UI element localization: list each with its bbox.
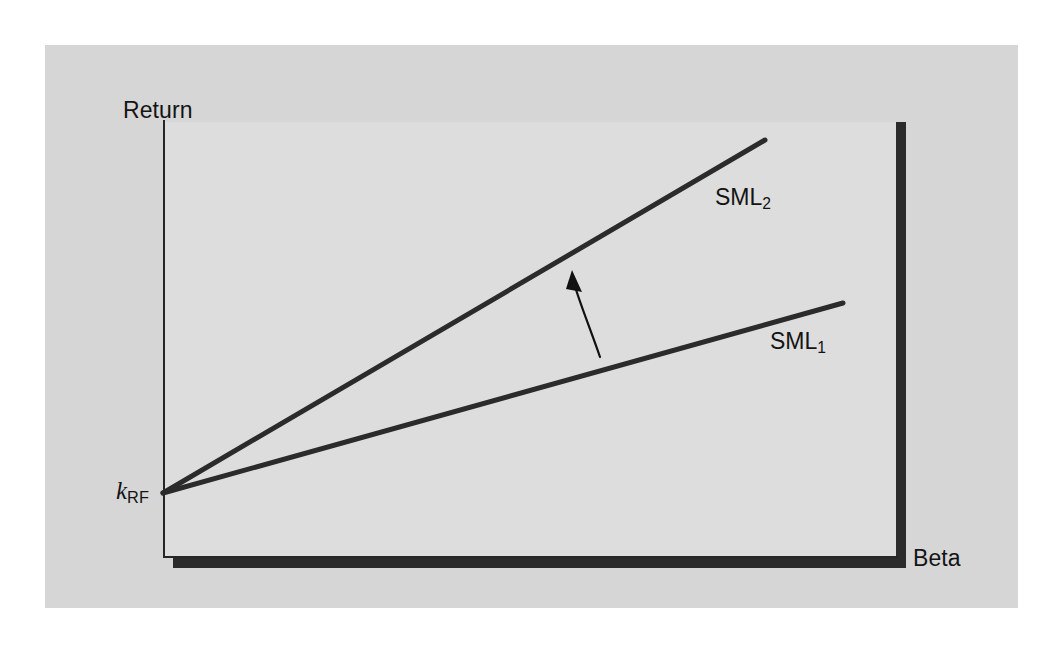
chart-canvas: [45, 45, 1018, 608]
risk-free-rate-label: kRF: [116, 477, 149, 507]
upward-shift-arrow: [566, 270, 600, 357]
series-label-sml2-subscript: 2: [762, 195, 771, 212]
series-label-sml1: SML1: [770, 328, 826, 357]
risk-free-rate-subscript: RF: [127, 488, 149, 506]
series-label-sml1-base: SML: [770, 328, 817, 354]
y-axis-label: Return: [123, 97, 193, 124]
series-label-sml2: SML2: [715, 184, 771, 213]
sml2-line: [163, 140, 765, 493]
sml1-line: [163, 303, 843, 493]
series-label-sml1-subscript: 1: [817, 339, 826, 356]
x-axis-label: Beta: [913, 545, 961, 572]
figure-panel: Return Beta SML2 SML1 kRF: [45, 45, 1018, 608]
risk-free-rate-symbol: k: [116, 477, 127, 504]
series-label-sml2-base: SML: [715, 184, 762, 210]
